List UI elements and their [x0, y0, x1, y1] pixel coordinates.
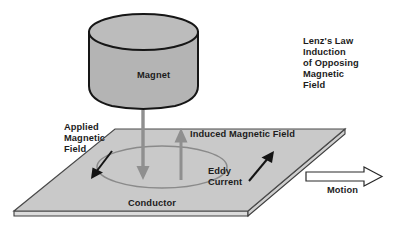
- conductor-plate-front-edge: [14, 211, 248, 216]
- magnet-cylinder: [89, 14, 198, 109]
- induced-magnetic-field-label: Induced Magnetic Field: [190, 129, 295, 140]
- motion-arrow: [306, 167, 382, 186]
- applied-magnetic-field-label: Applied Magnetic Field: [64, 122, 105, 155]
- motion-label: Motion: [327, 185, 358, 196]
- lenz-law-label: Lenz's Law Induction of Opposing Magneti…: [303, 36, 359, 91]
- magnet-top-face: [89, 14, 198, 50]
- eddy-current-diagram: Lenz's Law Induction of Opposing Magneti…: [0, 0, 395, 235]
- magnet-label: Magnet: [137, 70, 170, 81]
- eddy-current-label: Eddy Current: [208, 166, 242, 188]
- conductor-label: Conductor: [128, 198, 176, 209]
